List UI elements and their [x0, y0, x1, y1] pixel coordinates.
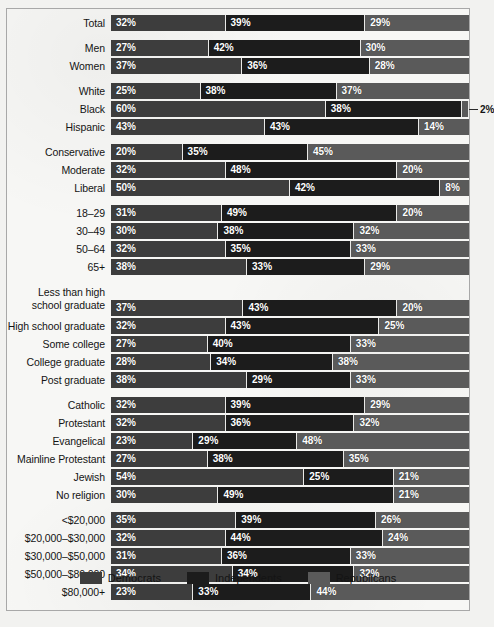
bar-segment-republicans: 37% [337, 83, 469, 99]
bar-segment-value: 29% [193, 433, 218, 449]
bar-segment-republicans: 20% [397, 205, 469, 221]
bar-segment-democrats: 20% [111, 144, 183, 160]
bar-segment-democrats: 25% [111, 83, 201, 99]
bar-segment-republicans: 28% [370, 58, 469, 74]
bar-segment-democrats: 37% [111, 300, 243, 316]
bar-segment-republicans: 45% [308, 144, 469, 160]
bar-segment-democrats: 32% [111, 15, 226, 31]
bar-segment-value: 36% [222, 548, 247, 564]
bar-segment-value: 30% [111, 487, 136, 503]
stacked-bar: 60%38%2%2% [111, 101, 469, 117]
bar-segment-democrats: 35% [111, 512, 236, 528]
bar-segment-value: 40% [208, 336, 233, 352]
bar-segment-independents: 42% [290, 180, 440, 196]
chart-legend: DemocratsIndependentsRepublicans [7, 572, 469, 584]
bar-segment-republicans: 21% [394, 487, 469, 503]
bar-segment-independents: 38% [208, 451, 344, 467]
bar-segment-independents: 35% [226, 241, 351, 257]
bar-segment-value: 25% [379, 318, 404, 334]
bar-group-income: <$20,00035%39%26%$20,000–$30,00032%44%24… [7, 512, 469, 600]
bar-segment-democrats: 54% [111, 469, 304, 485]
bar-segment-republicans: 2% [462, 101, 469, 117]
stacked-bar: 50%42%8% [111, 180, 469, 196]
bar-segment-value: 37% [337, 83, 362, 99]
bar-segment-value: 20% [111, 144, 136, 160]
bar-row-label: Black [7, 101, 111, 117]
stacked-bar: 37%43%20% [111, 300, 469, 316]
bar-row-label: Mainline Protestant [7, 451, 111, 467]
stacked-bar: 30%49%21% [111, 487, 469, 503]
chart-frame: Total32%39%29%Men27%42%30%Women37%36%28%… [6, 8, 470, 611]
bar-segment-value: 38% [333, 354, 358, 370]
stacked-bar: 38%29%33% [111, 372, 469, 388]
bar-row-label: Total [7, 15, 111, 31]
bar-row: No religion30%49%21% [7, 487, 469, 503]
bar-row: $80,000+23%33%44% [7, 584, 469, 600]
bar-segment-value: 42% [209, 40, 234, 56]
bar-segment-value: 23% [111, 433, 136, 449]
bar-segment-value: 37% [111, 58, 136, 74]
bar-segment-democrats: 43% [111, 119, 265, 135]
bar-segment-republicans: 32% [354, 223, 469, 239]
bar-segment-republicans: 26% [376, 512, 469, 528]
bar-segment-value: 43% [111, 119, 136, 135]
bar-segment-value: 27% [111, 40, 136, 56]
bar-row: Conservative20%35%45% [7, 144, 469, 160]
stacked-bar: 43%43%14% [111, 119, 469, 135]
bar-row-label: Post graduate [7, 372, 111, 388]
bar-segment-republicans: 32% [354, 415, 469, 431]
bar-segment-democrats: 30% [111, 223, 218, 239]
bar-segment-independents: 38% [326, 101, 462, 117]
bar-segment-value: 35% [111, 512, 136, 528]
stacked-bar: 25%38%37% [111, 83, 469, 99]
stacked-bar: 32%44%24% [111, 530, 469, 546]
legend-item-republicans: Republicans [308, 572, 397, 584]
bar-row: Hispanic43%43%14% [7, 119, 469, 135]
bar-segment-democrats: 32% [111, 397, 226, 413]
bar-segment-value: 32% [111, 530, 136, 546]
bar-segment-republicans: 14% [419, 119, 469, 135]
bar-segment-value: 21% [394, 487, 419, 503]
bar-row: High school graduate32%43%25% [7, 318, 469, 334]
bar-segment-value: 38% [111, 259, 136, 275]
bar-segment-independents: 33% [247, 259, 365, 275]
bar-segment-independents: 43% [226, 318, 380, 334]
bar-segment-value: 33% [351, 241, 376, 257]
stacked-bar: 32%36%32% [111, 415, 469, 431]
stacked-bar: 27%38%35% [111, 451, 469, 467]
bar-segment-value: 26% [376, 512, 401, 528]
bar-segment-republicans: 33% [351, 548, 469, 564]
bar-segment-republicans: 21% [394, 469, 469, 485]
legend-item-democrats: Democrats [80, 572, 161, 584]
bar-segment-value: 43% [226, 318, 251, 334]
bar-row: Evangelical23%29%48% [7, 433, 469, 449]
bar-segment-independents: 39% [236, 512, 376, 528]
bar-segment-value: 49% [222, 205, 247, 221]
bar-segment-value: 33% [351, 548, 376, 564]
bar-segment-republicans: 33% [351, 372, 469, 388]
bar-row: White25%38%37% [7, 83, 469, 99]
bar-row: 30–4930%38%32% [7, 223, 469, 239]
bar-segment-independents: 39% [226, 15, 366, 31]
bar-segment-value: 35% [226, 241, 251, 257]
bar-segment-value: 33% [247, 259, 272, 275]
bar-row-label: $20,000–$30,000 [7, 530, 111, 546]
bar-segment-republicans: 24% [383, 530, 469, 546]
bar-row-label: 65+ [7, 259, 111, 275]
bar-segment-value: 30% [111, 223, 136, 239]
stacked-bar: 37%36%28% [111, 58, 469, 74]
bar-segment-value: 38% [326, 101, 351, 117]
stacked-bar: 32%39%29% [111, 397, 469, 413]
bar-row-label: Evangelical [7, 433, 111, 449]
bar-row-label: Some college [7, 336, 111, 352]
bar-segment-value: 49% [218, 487, 243, 503]
bar-row-label: College graduate [7, 354, 111, 370]
bar-row-label: Catholic [7, 397, 111, 413]
legend-label: Democrats [108, 572, 161, 584]
stacked-bar: 30%38%32% [111, 223, 469, 239]
bar-row: <$20,00035%39%26% [7, 512, 469, 528]
bar-segment-value: 43% [243, 300, 268, 316]
bar-segment-value: 44% [226, 530, 251, 546]
bar-row-label: High school graduate [7, 318, 111, 334]
bar-segment-independents: 42% [209, 40, 361, 56]
